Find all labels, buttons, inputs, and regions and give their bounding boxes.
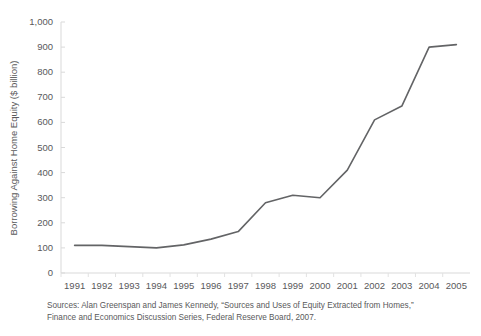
y-tick-label: 700 (37, 91, 53, 102)
x-tick-label: 2001 (337, 280, 358, 291)
x-axis-tick-marks (61, 273, 443, 277)
y-tick-label: 400 (37, 167, 53, 178)
y-tick-label: 600 (37, 116, 53, 127)
y-axis-tick-labels: 01002003004005006007008009001,000 (29, 16, 53, 278)
x-tick-label: 1993 (119, 280, 140, 291)
y-tick-label: 800 (37, 66, 53, 77)
y-tick-label: 500 (37, 142, 53, 153)
y-tick-label: 0 (48, 267, 53, 278)
y-tick-label: 900 (37, 41, 53, 52)
x-tick-label: 2002 (364, 280, 385, 291)
x-tick-label: 1995 (173, 280, 194, 291)
x-tick-label: 1994 (146, 280, 167, 291)
y-axis-tick-marks (61, 22, 65, 273)
y-axis-title: Borrowing Against Home Equity ($ billion… (8, 61, 19, 236)
x-tick-label: 2004 (419, 280, 440, 291)
chart-figure: Borrowing Against Home Equity ($ billion… (0, 0, 481, 336)
x-tick-label: 1997 (228, 280, 249, 291)
x-tick-label: 2003 (391, 280, 412, 291)
x-tick-label: 1996 (200, 280, 221, 291)
source-note: Sources: Alan Greenspan and James Kenned… (47, 300, 467, 323)
y-tick-label: 300 (37, 192, 53, 203)
x-axis-tick-labels: 1991199219931994199519961997199819992000… (64, 280, 467, 291)
line-chart: Borrowing Against Home Equity ($ billion… (0, 0, 481, 336)
x-tick-label: 1998 (255, 280, 276, 291)
x-tick-label: 1999 (282, 280, 303, 291)
x-tick-label: 1992 (91, 280, 112, 291)
y-tick-label: 200 (37, 217, 53, 228)
data-series-line (75, 45, 457, 248)
y-tick-label: 1,000 (29, 16, 53, 27)
x-tick-label: 2005 (446, 280, 467, 291)
y-tick-label: 100 (37, 242, 53, 253)
x-tick-label: 2000 (309, 280, 330, 291)
x-tick-label: 1991 (64, 280, 85, 291)
y-axis-title-group: Borrowing Against Home Equity ($ billion… (8, 61, 19, 236)
